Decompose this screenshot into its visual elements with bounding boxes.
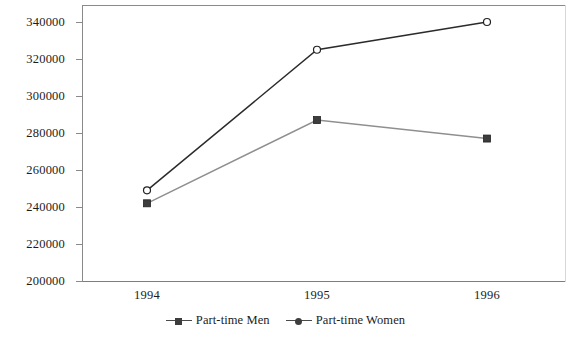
series-part-time-men <box>144 117 491 207</box>
data-point-square-marker <box>314 117 321 124</box>
line-chart: 2000002200002400002600002800003000003200… <box>0 0 571 338</box>
legend-entry-part-time-men: Part-time Men <box>166 313 270 328</box>
chart-legend: Part-time Men Part-time Women <box>0 313 571 328</box>
circle-marker-icon <box>286 316 312 326</box>
legend-label-part-time-women: Part-time Women <box>316 313 405 328</box>
legend-label-part-time-men: Part-time Men <box>196 313 270 328</box>
square-marker-icon <box>166 316 192 326</box>
data-point-circle-marker <box>484 19 491 26</box>
data-point-circle-marker <box>144 187 151 194</box>
series-layer <box>0 0 571 338</box>
data-point-square-marker <box>144 200 151 207</box>
legend-entry-part-time-women: Part-time Women <box>286 313 405 328</box>
data-point-square-marker <box>484 135 491 142</box>
data-point-circle-marker <box>314 46 321 53</box>
series-line <box>147 120 487 203</box>
series-part-time-women <box>144 19 491 194</box>
